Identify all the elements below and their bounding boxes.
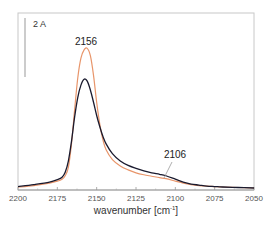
series-black-line — [18, 79, 254, 188]
peak-label-2106: 2106 — [164, 149, 187, 160]
peak-label-2156: 2156 — [75, 36, 98, 47]
x-axis-ticks: 2200217521502125210020752050 — [9, 187, 263, 203]
x-tick-label: 2100 — [166, 194, 184, 203]
ir-spectrum-chart: 2 A 2200217521502125210020752050 2156 21… — [0, 0, 273, 226]
scale-bar-label: 2 A — [33, 19, 46, 29]
x-tick-label: 2050 — [245, 194, 263, 203]
series-orange-line — [18, 48, 254, 188]
x-tick-label: 2075 — [206, 194, 224, 203]
x-tick-label: 2175 — [48, 194, 66, 203]
x-tick-label: 2150 — [88, 194, 106, 203]
x-tick-label: 2125 — [127, 194, 145, 203]
annotation-leader-line — [164, 162, 172, 178]
x-tick-label: 2200 — [9, 194, 27, 203]
plot-frame — [18, 13, 254, 190]
x-axis-title: wavenumber [cm-1] — [93, 205, 178, 216]
